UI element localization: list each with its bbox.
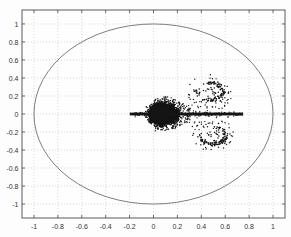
y-tick-label: -0.6 — [6, 165, 18, 172]
x-tick-labels: -1-0.8-0.6-0.4-0.200.20.40.60.81 — [31, 223, 275, 230]
x-tick-label: 1 — [271, 223, 275, 230]
x-tick-label: -0.6 — [76, 223, 88, 230]
y-tick-label: -1 — [12, 201, 18, 208]
x-tick-label: 0.6 — [220, 223, 230, 230]
y-tick-label: 0.8 — [9, 39, 19, 46]
y-tick-label: -0.4 — [6, 147, 18, 154]
y-tick-label: 0 — [15, 111, 19, 118]
y-tick-label: -0.8 — [6, 183, 18, 190]
x-tick-label: -0.4 — [100, 223, 112, 230]
real-axis-line — [130, 113, 243, 116]
y-tick-label: 1 — [15, 21, 19, 28]
y-tick-label: 0.6 — [9, 57, 19, 64]
x-tick-label: -0.2 — [124, 223, 136, 230]
x-tick-label: 0 — [152, 223, 156, 230]
y-tick-label: 0.2 — [9, 93, 19, 100]
plot-canvas: -1-0.8-0.6-0.4-0.200.20.40.60.81-1-0.8-0… — [0, 0, 291, 237]
x-tick-label: 0.8 — [244, 223, 254, 230]
x-tick-label: -0.8 — [52, 223, 64, 230]
matlab-figure: -1-0.8-0.6-0.4-0.200.20.40.60.81-1-0.8-0… — [0, 0, 291, 237]
y-tick-label: -0.2 — [6, 129, 18, 136]
x-tick-label: 0.2 — [173, 223, 183, 230]
y-tick-label: 0.4 — [9, 75, 19, 82]
x-tick-label: -1 — [31, 223, 37, 230]
x-tick-label: 0.4 — [196, 223, 206, 230]
y-tick-labels: -1-0.8-0.6-0.4-0.200.20.40.60.81 — [6, 21, 18, 208]
